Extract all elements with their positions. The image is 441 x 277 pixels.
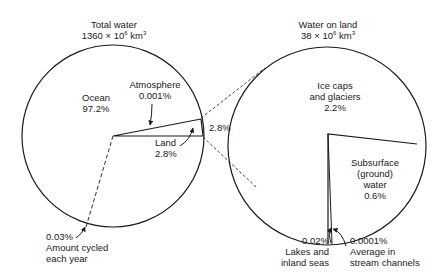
total-water-title: Total water 1360 × 106 km3 — [73, 19, 155, 41]
cycled-dashed-line — [86, 136, 113, 227]
stream-label: 0.0001% Average in stream channels — [350, 235, 420, 268]
ice-caps-label: Ice caps and glaciers 2.2% — [300, 80, 370, 113]
ocean-label: Ocean 97.2% — [76, 92, 116, 114]
land-label: Land 2.8% — [155, 137, 177, 159]
ground-water-label: Subsurface (ground) water 0.6% — [345, 157, 405, 201]
connector-label: 2.8% — [209, 122, 231, 133]
connector-upper — [201, 68, 265, 118]
lakes-label: 0.02% Lakes and inland seas — [281, 235, 329, 268]
water-on-land-title: Water on land 38 × 106 km3 — [292, 19, 364, 41]
land-wedge — [113, 119, 203, 136]
atmosphere-label: Atmosphere 0.001% — [127, 79, 183, 101]
water-on-land-circle — [228, 47, 426, 245]
connector-lower — [203, 137, 257, 188]
cycled-label: 0.03% Amount cycled each year — [46, 231, 108, 264]
